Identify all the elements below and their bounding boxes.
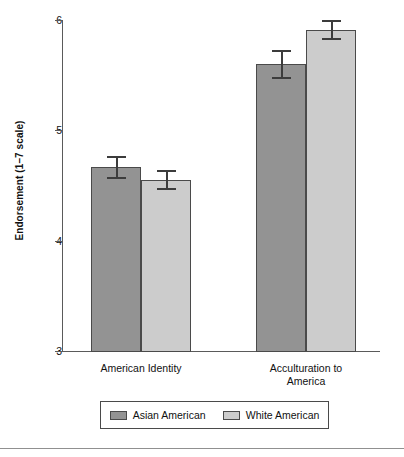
error-bar-cap-top <box>107 156 126 158</box>
x-axis-label-acculturation-to-america: Acculturation to America <box>241 362 371 387</box>
error-bar-white-american-identity <box>157 170 176 190</box>
legend-label-asian-american: Asian American <box>133 410 206 421</box>
error-bar-stem <box>116 156 118 179</box>
legend-item-asian-american: Asian American <box>110 410 206 421</box>
bar-white-american-acculturation <box>306 30 356 352</box>
legend-item-white-american: White American <box>223 410 320 421</box>
legend-label-white-american: White American <box>246 410 320 421</box>
y-tick-mark-3 <box>55 351 62 352</box>
error-bar-cap-bottom <box>107 177 126 179</box>
error-bar-asian-american-acculturation <box>272 50 291 79</box>
error-bar-stem <box>331 20 333 40</box>
x-axis-label-line: Acculturation to <box>241 362 371 375</box>
error-bar-stem <box>166 170 168 190</box>
legend-swatch-icon-asian-american <box>110 411 127 420</box>
bar-white-american-identity <box>141 180 191 352</box>
x-axis-label-line: America <box>241 375 371 388</box>
legend-swatch-icon-white-american <box>223 411 240 420</box>
y-tick-mark-6 <box>55 20 62 21</box>
y-axis-line <box>62 20 63 352</box>
footer-divider <box>0 448 404 449</box>
x-axis-label-american-identity: American Identity <box>76 362 206 375</box>
error-bar-cap-top <box>157 170 176 172</box>
bar-asian-american-identity <box>91 167 141 352</box>
x-axis-label-line: American Identity <box>76 362 206 375</box>
error-bar-cap-bottom <box>157 188 176 190</box>
bar-asian-american-acculturation <box>256 64 306 352</box>
error-bar-cap-bottom <box>272 77 291 79</box>
error-bar-cap-top <box>322 20 341 22</box>
y-tick-mark-4 <box>55 241 62 242</box>
error-bar-cap-top <box>272 50 291 52</box>
error-bar-asian-american-identity <box>107 156 126 179</box>
y-axis-title: Endorsement (1–7 scale) <box>14 61 25 301</box>
chart-figure: Endorsement (1–7 scale) 6 5 4 3 <box>0 0 404 457</box>
error-bar-white-american-acculturation <box>322 20 341 40</box>
chart-legend: Asian American White American <box>100 401 329 429</box>
error-bar-stem <box>281 50 283 79</box>
error-bar-cap-bottom <box>322 38 341 40</box>
y-tick-mark-5 <box>55 130 62 131</box>
